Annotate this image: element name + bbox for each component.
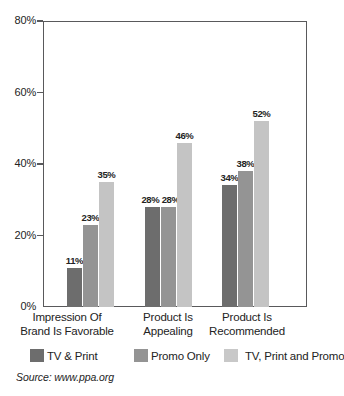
bar-group-appealing: 28% 28% 46% xyxy=(145,21,192,307)
bar-promo-only[interactable]: 28% xyxy=(161,207,176,307)
bar-tv-and-print[interactable]: 11% xyxy=(67,268,82,307)
bar-group-impression: 11% 23% 35% xyxy=(67,21,114,307)
legend-swatch-icon xyxy=(30,349,44,362)
bar-group-recommended: 34% 38% 52% xyxy=(222,21,269,307)
x-axis-label-line: Recommended xyxy=(192,324,302,338)
source-note: Source: www.ppa.org xyxy=(16,371,114,383)
x-axis-label-recommended: Product Is Recommended xyxy=(192,310,302,338)
bar-tv-print-and-promo[interactable]: 46% xyxy=(177,143,192,307)
bar-tv-print-and-promo[interactable]: 35% xyxy=(99,182,114,307)
chart-legend: TV & Print Promo Only TV, Print and Prom… xyxy=(30,347,310,364)
bar-tv-print-and-promo[interactable]: 52% xyxy=(254,121,269,307)
legend-item-tv-print-and-promo[interactable]: TV, Print and Promo xyxy=(224,347,344,364)
x-axis-label-line: Product Is xyxy=(192,310,302,324)
bar-tv-and-print[interactable]: 34% xyxy=(222,185,237,307)
legend-item-promo-only[interactable]: Promo Only xyxy=(134,347,210,364)
bar-value-label: 38% xyxy=(237,158,255,169)
legend-swatch-icon xyxy=(224,349,238,362)
bar-value-label: 23% xyxy=(82,212,100,223)
bar-value-label: 28% xyxy=(141,194,159,205)
legend-swatch-icon xyxy=(134,349,148,362)
bar-promo-only[interactable]: 38% xyxy=(238,171,253,307)
x-axis-label-line: Brand Is Favorable xyxy=(12,324,122,338)
bar-value-label: 11% xyxy=(66,255,83,266)
x-axis-label-line: Impression Of xyxy=(12,310,122,324)
bar-value-label: 35% xyxy=(98,169,116,180)
bar-tv-and-print[interactable]: 28% xyxy=(145,207,160,307)
bar-value-label: 34% xyxy=(221,172,239,183)
legend-label: Promo Only xyxy=(151,350,210,362)
x-axis-label-impression: Impression Of Brand Is Favorable xyxy=(12,310,122,338)
bar-promo-only[interactable]: 23% xyxy=(83,225,98,307)
legend-label: TV & Print xyxy=(47,350,97,362)
legend-item-tv-and-print[interactable]: TV & Print xyxy=(30,347,97,364)
bars-layer: 11% 23% 35% 28% 28% 46% 34% xyxy=(43,21,307,307)
bar-value-label: 52% xyxy=(253,108,271,119)
legend-label: TV, Print and Promo xyxy=(245,350,344,362)
bar-value-label: 46% xyxy=(176,130,194,141)
